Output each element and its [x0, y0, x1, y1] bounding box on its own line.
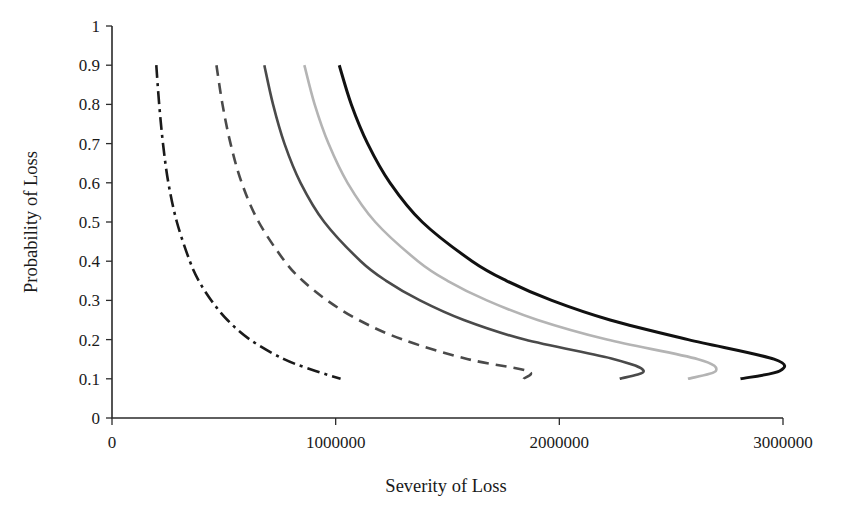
series-line-curve-5 [339, 65, 784, 379]
y-axis-tick-label: 0.7 [79, 135, 101, 154]
series-line-curve-3 [264, 65, 643, 379]
x-axis-tick-label: 1000000 [306, 433, 366, 452]
axis-spines [112, 26, 783, 418]
axis-tick-labels-group: 00.10.20.30.40.50.60.70.80.9101000000200… [79, 17, 813, 452]
axes-group [112, 26, 783, 418]
y-axis-tick-label: 0.8 [79, 95, 100, 114]
x-axis-tick-label: 2000000 [530, 433, 590, 452]
series-line-curve-1 [156, 65, 340, 379]
y-axis-tick-label: 0.1 [79, 370, 100, 389]
x-axis-title: Severity of Loss [385, 476, 506, 496]
axis-ticks-group [106, 26, 783, 425]
y-axis-tick-label: 0.4 [79, 252, 101, 271]
y-axis-tick-label: 0.9 [79, 56, 100, 75]
y-axis-tick-label: 0.3 [79, 291, 100, 310]
chart-canvas: 00.10.20.30.40.50.60.70.80.9101000000200… [0, 0, 849, 522]
series-group [156, 65, 784, 379]
x-axis-tick-label: 0 [108, 433, 117, 452]
y-axis-tick-label: 0.5 [79, 213, 100, 232]
plot-area: 00.10.20.30.40.50.60.70.80.9101000000200… [79, 17, 813, 452]
y-axis-tick-label: 0.6 [79, 174, 100, 193]
y-axis-tick-label: 0.2 [79, 331, 100, 350]
y-axis-tick-label: 0 [92, 409, 101, 428]
x-axis-tick-label: 3000000 [753, 433, 813, 452]
y-axis-title: Probability of Loss [21, 151, 41, 293]
chart-figure: 00.10.20.30.40.50.60.70.80.9101000000200… [0, 0, 849, 522]
y-axis-tick-label: 1 [92, 17, 101, 36]
